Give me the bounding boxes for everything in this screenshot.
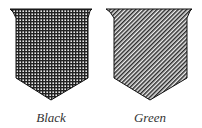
shields-illustration (0, 0, 202, 128)
black-label: Black (6, 110, 96, 126)
black-shield (10, 9, 92, 100)
green-shield (106, 9, 192, 100)
green-label: Green (105, 110, 195, 126)
